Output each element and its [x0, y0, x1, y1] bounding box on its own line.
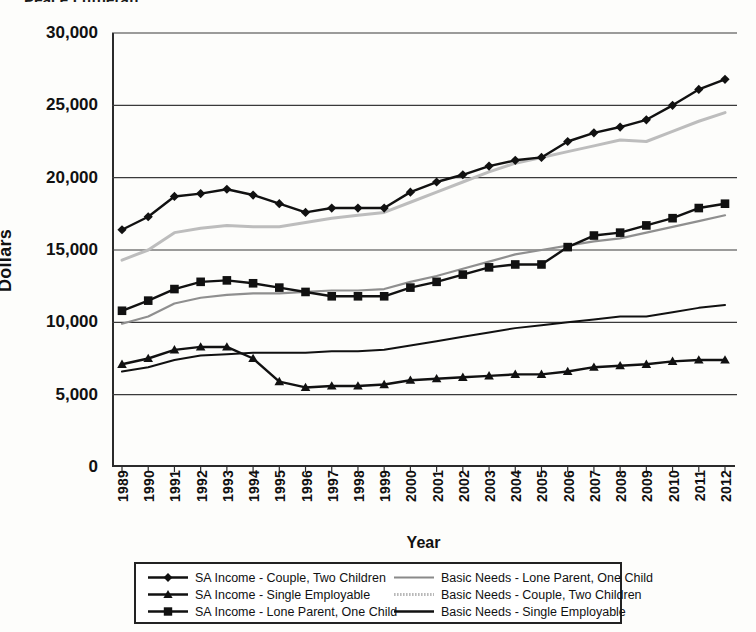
- legend-key-square-marker: [146, 605, 190, 618]
- x-axis-tick: 2007: [587, 470, 603, 502]
- legend-key-plain-line: [392, 605, 436, 618]
- diamond-marker: [275, 199, 284, 208]
- legend-label: Basic Needs - Couple, Two Children: [441, 588, 642, 602]
- legend-key-plain-line: [392, 571, 436, 584]
- y-axis-tick: 20,000: [46, 168, 98, 188]
- square-marker: [537, 260, 546, 269]
- square-marker: [694, 204, 703, 213]
- x-axis-tick: 2012: [718, 470, 734, 502]
- legend-item[interactable]: SA Income - Single Employable: [146, 588, 392, 602]
- x-axis-tick: 2000: [403, 470, 419, 502]
- square-marker: [354, 292, 363, 301]
- diamond-marker: [589, 128, 598, 137]
- square-marker: [275, 283, 284, 292]
- square-marker: [249, 279, 258, 288]
- y-axis-title: Dollars: [0, 229, 16, 292]
- y-axis-tick: 15,000: [46, 240, 98, 260]
- x-axis-tick: 1995: [272, 470, 288, 502]
- x-axis-tick: 1994: [246, 470, 262, 502]
- square-marker: [563, 243, 572, 252]
- x-axis-title: Year: [112, 534, 735, 552]
- x-axis-tick: 1992: [194, 470, 210, 502]
- legend-item[interactable]: Basic Needs - Couple, Two Children: [392, 588, 632, 602]
- legend-key-diamond-marker: [146, 571, 190, 584]
- square-marker: [668, 214, 677, 223]
- square-marker: [380, 292, 389, 301]
- square-marker: [459, 270, 468, 279]
- x-axis-tick: 1989: [115, 470, 131, 502]
- x-axis-tick: 2006: [561, 470, 577, 502]
- square-marker: [485, 263, 494, 272]
- square-marker: [118, 306, 127, 315]
- diamond-marker: [327, 203, 336, 212]
- x-axis-tick: 2005: [534, 470, 550, 502]
- diamond-marker: [353, 203, 362, 212]
- legend-item[interactable]: Basic Needs - Lone Parent, One Child: [392, 571, 632, 585]
- x-axis-tick: 1997: [325, 470, 341, 502]
- legend-label: SA Income - Lone Parent, One Child: [195, 605, 397, 619]
- square-marker: [511, 260, 520, 269]
- x-axis-tick: 2004: [508, 470, 524, 502]
- legend-label: Basic Needs - Single Employable: [441, 605, 626, 619]
- chart-canvas: [112, 33, 737, 469]
- series-none: [122, 215, 725, 324]
- x-axis-tick: 2003: [482, 470, 498, 502]
- x-axis-tick: 1990: [141, 470, 157, 502]
- diamond-marker: [642, 115, 651, 124]
- x-axis-tick: 1999: [377, 470, 393, 502]
- x-axis-tick: 2009: [639, 470, 655, 502]
- diamond-marker: [222, 185, 231, 194]
- series-diamond: [117, 75, 729, 235]
- chart-page: Peace Lutheran … 30,00025,00020,00015,00…: [0, 0, 756, 632]
- x-axis-tick: 1991: [167, 470, 183, 502]
- legend-label: Basic Needs - Lone Parent, One Child: [441, 571, 653, 585]
- x-axis-tick: 2010: [666, 470, 682, 502]
- plot-area: [112, 33, 735, 467]
- diamond-marker: [117, 225, 126, 234]
- diamond-marker: [720, 75, 729, 84]
- diamond-marker: [616, 122, 625, 131]
- legend-item[interactable]: SA Income - Lone Parent, One Child: [146, 605, 392, 619]
- square-marker: [301, 288, 310, 297]
- x-axis-tick: 2011: [692, 470, 708, 501]
- square-marker: [721, 199, 730, 208]
- x-axis-tick: 1993: [220, 470, 236, 502]
- chart-legend: SA Income - Couple, Two ChildrenBasic Ne…: [134, 562, 622, 624]
- x-axis-tick: 1996: [299, 470, 315, 502]
- y-axis-tick: 10,000: [46, 312, 98, 332]
- square-marker: [327, 292, 336, 301]
- series-line: [122, 204, 725, 311]
- x-axis-labels: 1989199019911992199319941995199619971998…: [112, 470, 735, 532]
- square-marker: [196, 278, 205, 287]
- diamond-marker: [248, 190, 257, 199]
- y-axis-tick: 5,000: [55, 385, 98, 405]
- diamond-marker: [432, 177, 441, 186]
- x-axis-tick: 2008: [613, 470, 629, 502]
- diamond-marker: [196, 189, 205, 198]
- y-axis-tick: 0: [89, 457, 98, 477]
- square-marker: [590, 231, 599, 240]
- diamond-marker: [164, 573, 173, 582]
- x-axis-tick: 2001: [430, 470, 446, 502]
- series-triangle: [117, 342, 730, 391]
- legend-label: SA Income - Single Employable: [195, 588, 370, 602]
- diamond-marker: [301, 208, 310, 217]
- legend-item[interactable]: Basic Needs - Single Employable: [392, 605, 632, 619]
- legend-label: SA Income - Couple, Two Children: [195, 571, 386, 585]
- y-axis-tick: 30,000: [46, 23, 98, 43]
- legend-key-triangle-marker: [146, 588, 190, 601]
- legend-item[interactable]: SA Income - Couple, Two Children: [146, 571, 392, 585]
- square-marker: [432, 278, 441, 287]
- series-line: [122, 305, 725, 372]
- series-line: [122, 215, 725, 324]
- series-line: [122, 79, 725, 229]
- square-marker: [406, 283, 415, 292]
- square-marker: [164, 607, 172, 615]
- series-line: [122, 347, 725, 388]
- square-marker: [144, 296, 153, 305]
- square-marker: [642, 221, 651, 230]
- series-none: [122, 305, 725, 372]
- square-marker: [223, 276, 232, 285]
- legend-key-dotted-line: [392, 588, 436, 601]
- square-marker: [170, 285, 179, 294]
